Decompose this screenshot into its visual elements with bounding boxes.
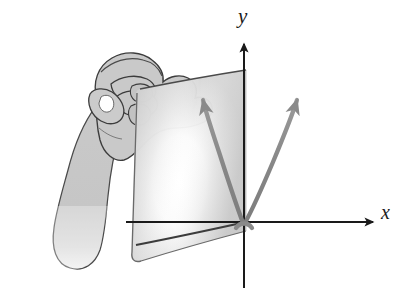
y-axis-label: y (238, 6, 247, 27)
figure-canvas: y x (0, 0, 401, 294)
transparent-sheet (132, 70, 246, 262)
pinch-highlight (99, 95, 114, 112)
sheet-tint (132, 70, 246, 262)
x-axis-label: x (381, 202, 390, 222)
parabola-right-branch (245, 100, 297, 223)
illustration (0, 0, 401, 294)
